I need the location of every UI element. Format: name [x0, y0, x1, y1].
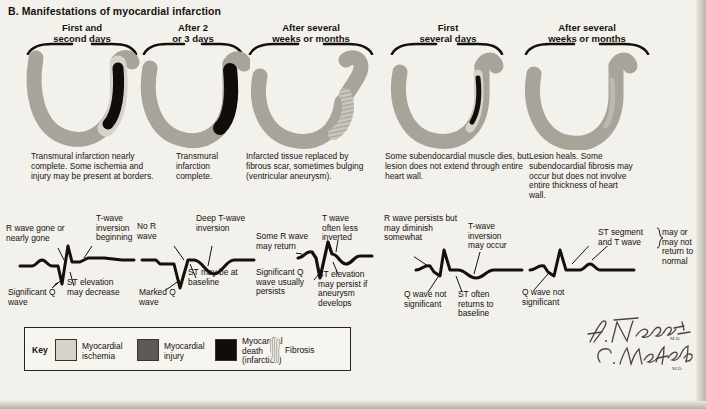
key-label-fibrosis: Fibrosis [285, 346, 337, 356]
key-legend: Key Myocardial ischemia Myocardial injur… [24, 327, 351, 371]
key-label-injury: Myocardial injury [164, 342, 216, 361]
signature-suffix-1: M.D. [670, 336, 681, 341]
illustration-page: B. Manifestations of myocardial infarcti… [0, 0, 706, 409]
annotation-may-or-may-not-return: may or may not return to normal [662, 228, 704, 266]
annotation-t-wave-often-less-inverted: T wave often less inverted [322, 214, 368, 243]
description-2: Transmural infarction complete. [176, 152, 238, 181]
description-5: Lesion heals. Some subendocardial fibros… [529, 152, 633, 201]
description-4: Some subendocardial muscle dies, but les… [385, 152, 535, 181]
column-header-4-line1: First [398, 22, 498, 33]
column-header-1-line1: First and [30, 22, 134, 33]
signature-suffix-2: M.D. [672, 366, 683, 371]
ecg-trace-2 [140, 240, 258, 294]
page-title: B. Manifestations of myocardial infarcti… [8, 5, 221, 17]
heart-cross-section-1 [18, 44, 140, 148]
ecg-trace-3 [296, 240, 376, 284]
annotation-r-wave-persists: R wave persists but may diminish somewha… [384, 214, 460, 243]
key-label: Key [32, 345, 48, 355]
key-swatch-ischemia [55, 339, 77, 361]
annotation-t-wave-inversion-may-occur: T-wave inversion may occur [468, 222, 516, 251]
heart-cross-section-2 [134, 44, 250, 148]
column-header-2-line1: After 2 [146, 22, 240, 33]
description-1: Transmural infarction nearly complete. S… [31, 152, 159, 181]
ecg-trace-5 [528, 246, 640, 294]
heart-cross-section-5 [518, 44, 642, 150]
annotation-deep-t-wave-inversion: Deep T-wave inversion [196, 214, 254, 233]
page-edge-shadow-bottom [0, 401, 706, 409]
artist-signature: M.D. M.D. [586, 316, 696, 372]
ecg-trace-4 [414, 248, 526, 294]
key-label-ischemia: Myocardial ischemia [82, 342, 134, 361]
annotation-no-r-wave: No R wave [137, 222, 171, 241]
key-swatch-fibrosis [270, 338, 280, 362]
heart-cross-section-3 [246, 44, 374, 150]
heart-cross-section-4 [386, 44, 506, 150]
signature-icon: M.D. M.D. [586, 316, 696, 372]
key-swatch-injury [137, 339, 159, 361]
column-header-1: First and second days [30, 22, 134, 44]
column-header-2: After 2 or 3 days [146, 22, 240, 44]
annotation-st-often-returns-to-baseline: ST often returns to baseline [458, 290, 504, 319]
column-header-3: After several weeks or months [252, 22, 370, 44]
annotation-st-segment-and-t-wave: ST segment and T wave [598, 228, 658, 247]
key-swatch-death [215, 339, 237, 361]
brace-icon-annotation-5 [655, 227, 664, 249]
column-header-5-line1: After several [528, 22, 646, 33]
column-header-3-line1: After several [252, 22, 370, 33]
column-header-5: After several weeks or months [528, 22, 646, 44]
column-header-4: First several days [398, 22, 498, 44]
page-edge-shadow-right [696, 0, 706, 409]
description-3: Infarcted tissue replaced by fibrous sca… [246, 152, 374, 181]
ecg-trace-1 [18, 240, 138, 292]
